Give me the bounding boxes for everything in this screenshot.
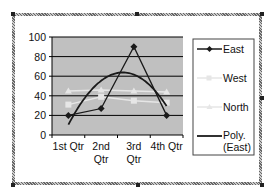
x-tick-label: Qtr <box>94 153 109 165</box>
x-axis: 1st Qtr2ndQtr3rdQtr4th Qtr <box>52 135 183 165</box>
square-marker-icon <box>65 102 71 108</box>
y-tick-label: 20 <box>34 109 46 121</box>
svg-text:West: West <box>223 72 247 84</box>
svg-text:Poly.: Poly. <box>223 129 246 141</box>
y-tick-label: 60 <box>34 70 46 82</box>
svg-text:East: East <box>223 43 244 55</box>
x-tick-label: Qtr <box>127 153 142 165</box>
y-tick-label: 0 <box>40 129 46 141</box>
x-tick-label: 3rd <box>126 140 141 152</box>
y-tick-label: 100 <box>28 31 46 43</box>
square-marker-icon <box>207 76 212 81</box>
legend: East West North Poly. (East) <box>193 39 254 155</box>
y-tick-label: 80 <box>34 51 46 63</box>
x-tick-label: 4th Qtr <box>151 140 184 152</box>
svg-text:(East): (East) <box>223 141 251 153</box>
square-marker-icon <box>98 94 104 100</box>
chart[interactable]: 020406080100 1st Qtr2ndQtr3rdQtr4th Qtr … <box>0 0 274 195</box>
y-axis: 020406080100 <box>28 31 52 141</box>
x-tick-label: 1st Qtr <box>53 140 85 152</box>
y-tick-label: 40 <box>34 90 46 102</box>
svg-text:North: North <box>223 101 249 113</box>
square-marker-icon <box>131 98 137 104</box>
x-tick-label: 2nd <box>92 140 110 152</box>
